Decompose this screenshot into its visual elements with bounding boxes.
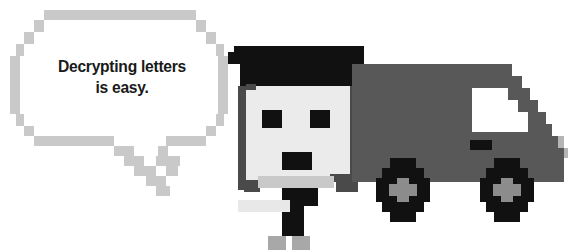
character-arm (238, 200, 290, 212)
character-left-eye (262, 110, 282, 128)
character-right-foot (292, 236, 310, 250)
character-hat (228, 46, 364, 86)
speech-bubble-fill (20, 20, 218, 136)
illustration-canvas: Decrypting letters is easy. (0, 0, 584, 252)
character-left-foot (268, 236, 286, 250)
character-right-eye (310, 110, 330, 128)
character-mouth (282, 152, 312, 170)
pixel-art-illustration (0, 0, 584, 252)
truck-door-handle (470, 140, 492, 150)
character-chin-shading (258, 176, 334, 188)
